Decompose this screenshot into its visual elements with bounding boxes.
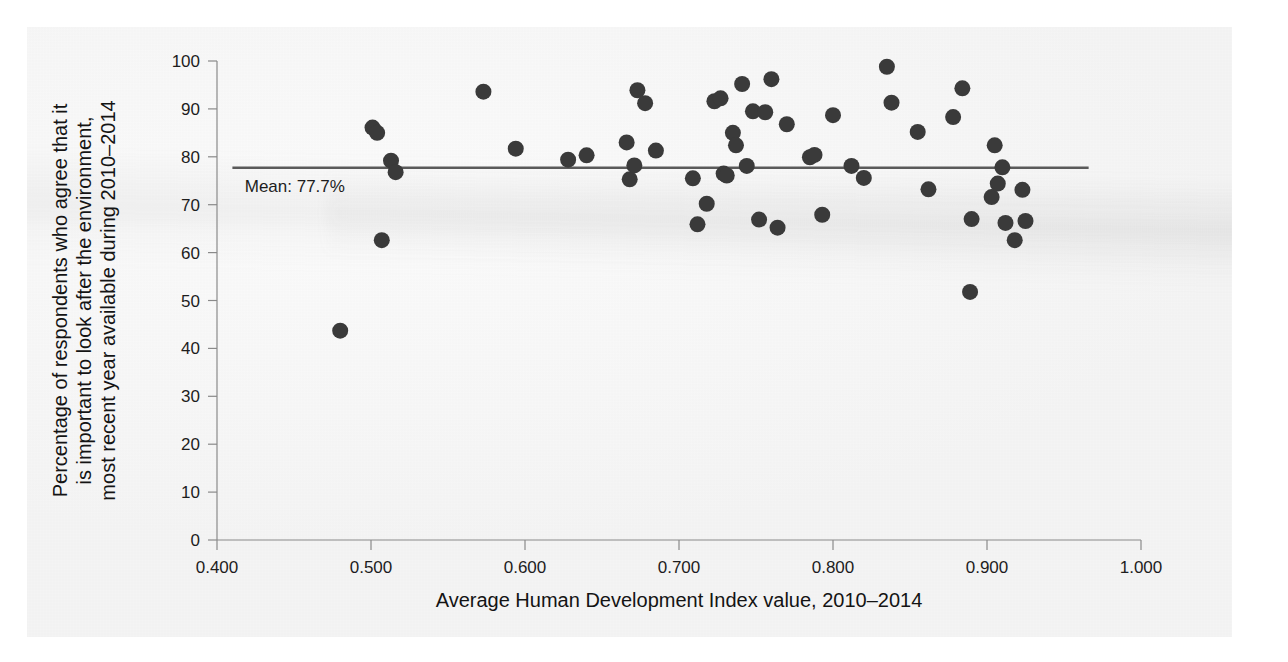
data-point bbox=[719, 167, 735, 183]
x-tick-label: 0.700 bbox=[658, 558, 701, 577]
data-point bbox=[807, 147, 823, 163]
data-point bbox=[560, 152, 576, 168]
data-point bbox=[751, 212, 767, 228]
x-tick-label: 0.800 bbox=[812, 558, 855, 577]
data-point bbox=[962, 284, 978, 300]
y-axis-title-line: most recent year available during 2010–2… bbox=[97, 100, 119, 500]
x-tick-label: 1.000 bbox=[1120, 558, 1163, 577]
data-point bbox=[713, 90, 729, 106]
data-point bbox=[332, 323, 348, 339]
data-point bbox=[843, 158, 859, 174]
data-point bbox=[508, 141, 524, 157]
data-point bbox=[689, 216, 705, 232]
x-axis-title: Average Human Development Index value, 2… bbox=[436, 589, 923, 611]
x-tick-label: 0.400 bbox=[196, 558, 239, 577]
data-point bbox=[814, 207, 830, 223]
data-point bbox=[1007, 232, 1023, 248]
y-tick-label: 90 bbox=[181, 100, 200, 119]
axes bbox=[217, 61, 1141, 540]
x-tick-label: 0.600 bbox=[504, 558, 547, 577]
mean-line-label-text: Mean: 77.7% bbox=[245, 177, 345, 196]
data-point bbox=[770, 220, 786, 236]
data-point bbox=[728, 137, 744, 153]
data-point bbox=[619, 134, 635, 150]
data-point bbox=[990, 176, 1006, 192]
y-tick-label: 10 bbox=[181, 483, 200, 502]
data-point bbox=[997, 215, 1013, 231]
data-point bbox=[579, 147, 595, 163]
y-tick-label: 100 bbox=[172, 52, 200, 71]
y-tick-label: 70 bbox=[181, 196, 200, 215]
y-tick-label: 80 bbox=[181, 148, 200, 167]
data-point bbox=[388, 164, 404, 180]
scatter-chart: 0102030405060708090100 0.4000.5000.6000.… bbox=[0, 0, 1288, 662]
x-axis-title-text: Average Human Development Index value, 2… bbox=[436, 589, 923, 611]
x-tick-label: 0.500 bbox=[350, 558, 393, 577]
mean-line-label: Mean: 77.7% bbox=[245, 177, 345, 196]
data-point bbox=[475, 84, 491, 100]
y-tick-label: 40 bbox=[181, 339, 200, 358]
data-point bbox=[1018, 213, 1034, 229]
data-point bbox=[739, 158, 755, 174]
data-point bbox=[884, 95, 900, 111]
data-point bbox=[637, 95, 653, 111]
data-point bbox=[825, 107, 841, 123]
data-points bbox=[332, 59, 1033, 339]
data-point bbox=[954, 80, 970, 96]
chart-page: 0102030405060708090100 0.4000.5000.6000.… bbox=[0, 0, 1288, 662]
y-axis-title: Percentage of respondents who agree that… bbox=[49, 100, 119, 500]
data-point bbox=[622, 171, 638, 187]
y-axis-title-line: is important to look after the environme… bbox=[73, 117, 95, 485]
y-tick-label: 0 bbox=[191, 531, 200, 550]
y-tick-label: 20 bbox=[181, 435, 200, 454]
y-axis-title-line: Percentage of respondents who agree that… bbox=[49, 103, 71, 497]
data-point bbox=[910, 124, 926, 140]
data-point bbox=[763, 71, 779, 87]
data-point bbox=[879, 59, 895, 75]
data-point bbox=[779, 116, 795, 132]
data-point bbox=[685, 170, 701, 186]
data-point bbox=[987, 137, 1003, 153]
y-tick-label: 60 bbox=[181, 244, 200, 263]
data-point bbox=[369, 125, 385, 141]
data-point bbox=[648, 143, 664, 159]
data-point bbox=[856, 170, 872, 186]
data-point bbox=[1014, 182, 1030, 198]
data-point bbox=[920, 181, 936, 197]
data-point bbox=[734, 76, 750, 92]
x-axis-ticks: 0.4000.5000.6000.7000.8000.9001.000 bbox=[196, 540, 1163, 577]
data-point bbox=[964, 211, 980, 227]
data-point bbox=[626, 157, 642, 173]
data-point bbox=[699, 196, 715, 212]
data-point bbox=[757, 104, 773, 120]
y-tick-label: 30 bbox=[181, 387, 200, 406]
y-axis-ticks: 0102030405060708090100 bbox=[172, 52, 217, 550]
x-tick-label: 0.900 bbox=[966, 558, 1009, 577]
y-tick-label: 50 bbox=[181, 292, 200, 311]
data-point bbox=[374, 232, 390, 248]
data-point bbox=[994, 159, 1010, 175]
data-point bbox=[945, 109, 961, 125]
